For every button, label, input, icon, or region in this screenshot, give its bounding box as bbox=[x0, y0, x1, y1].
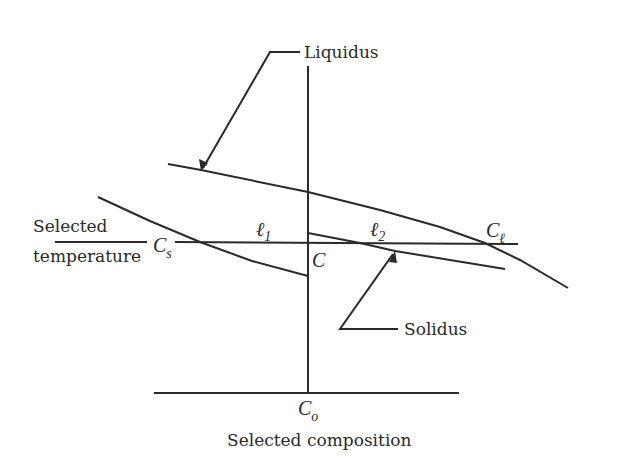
c0-label: Co bbox=[298, 397, 318, 424]
selected-composition-label: Selected composition bbox=[227, 430, 412, 450]
cs-label: Cs bbox=[153, 234, 172, 261]
solidus-leader bbox=[340, 254, 398, 329]
c-label: C bbox=[312, 249, 326, 271]
solidus-label: Solidus bbox=[404, 319, 467, 339]
liquidus-label: Liquidus bbox=[304, 42, 379, 62]
selected-temperature-label-1: Selected bbox=[33, 216, 108, 236]
l2-label: ℓ2 bbox=[370, 218, 385, 244]
cl-label: Cℓ bbox=[486, 219, 505, 246]
liquidus-leader bbox=[203, 52, 300, 168]
phase-diagram: Liquidus Solidus Selected temperature Se… bbox=[0, 0, 628, 475]
temperature-line bbox=[175, 242, 518, 244]
selected-temperature-label-2: temperature bbox=[33, 246, 141, 266]
l1-label: ℓ1 bbox=[256, 218, 271, 244]
solidus-curve bbox=[308, 233, 505, 269]
liquidus-curve bbox=[168, 164, 568, 288]
